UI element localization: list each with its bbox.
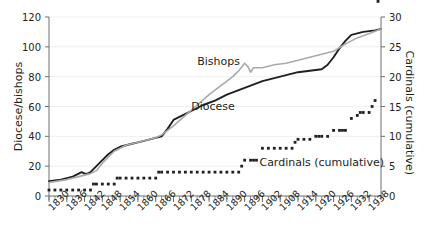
series-label-bishops: Bishops — [197, 55, 240, 68]
series-label-cardinals: Cardinals (cumulative) — [259, 156, 384, 169]
series-label-diocese: Diocese — [191, 100, 235, 113]
y-axis-right-tick-label: 15 — [389, 101, 413, 112]
y-axis-left-tick-label: 60 — [7, 101, 41, 112]
y-axis-right-tick-label: 25 — [389, 41, 413, 52]
y-axis-left-tick-label: 0 — [7, 191, 41, 202]
y-axis-left-tick-label: 100 — [7, 41, 41, 52]
y-axis-left-tick-label: 20 — [7, 161, 41, 172]
y-axis-right-tick-label: 10 — [389, 131, 413, 142]
chart-container: Diocese/bishops Cardinals (cumulative) 0… — [0, 0, 427, 248]
y-axis-right-tick-label: 20 — [389, 71, 413, 82]
y-axis-left-tick-label: 40 — [7, 131, 41, 142]
y-axis-right-tick-label: 5 — [389, 161, 413, 172]
y-axis-left-tick-label: 120 — [7, 12, 41, 23]
y-axis-right-tick-label: 30 — [389, 12, 413, 23]
y-axis-left-tick-label: 80 — [7, 71, 41, 82]
y-axis-right-tick-label: 0 — [389, 191, 413, 202]
